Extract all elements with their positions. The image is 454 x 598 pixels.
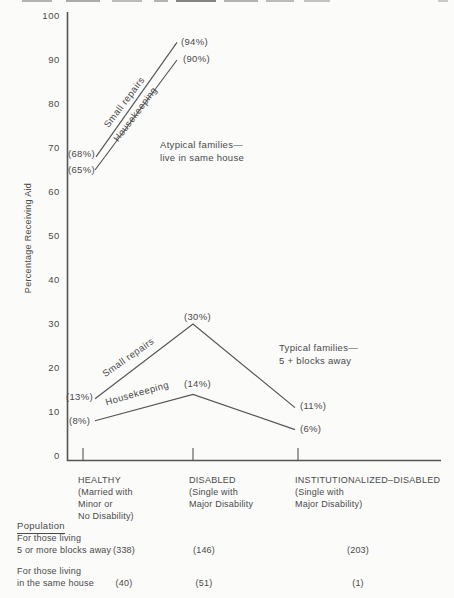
population-value-blocks-inst: (203) (328, 544, 388, 556)
point-label-typical-housekeeping-inst: (6%) (300, 423, 321, 435)
y-tick-label: 80 (26, 98, 60, 110)
category-sub-line: Major Disability) (295, 498, 440, 510)
y-tick-label: 90 (26, 54, 60, 66)
category-institutionalized-disabled: INSTITUTIONALIZED–DISABLED (Single with … (295, 474, 440, 510)
population-row2-label: For those living in the same house (17, 565, 94, 589)
population-value-blocks-disabled: (146) (174, 544, 234, 556)
y-tick-label: 70 (26, 142, 60, 154)
population-row-label-line: For those living (17, 532, 111, 544)
scanned-chart-page: 1009080706050403020100 Percentage Receiv… (0, 0, 454, 598)
annotation-line: Atypical families— (160, 139, 244, 152)
population-row-label-line: in the same house (17, 577, 94, 589)
y-axis-title: Percentage Receiving Aid (23, 183, 33, 293)
y-tick-label: 100 (26, 10, 60, 22)
annotation-line: 5 + blocks away (279, 355, 358, 368)
point-label-typical-small-repairs-disabled: (30%) (184, 311, 211, 323)
category-sub-line: (Married with (78, 486, 134, 498)
annotation-line: live in same house (160, 152, 244, 165)
point-label-atypical-housekeeping-disabled: (90%) (183, 53, 210, 65)
point-label-atypical-small-repairs-healthy: (68%) (68, 148, 95, 160)
annotation-atypical-families: Atypical families— live in same house (160, 139, 244, 164)
y-tick-label: 10 (26, 406, 60, 418)
category-sub-line: (Single with (295, 486, 440, 498)
point-label-atypical-small-repairs-disabled: (94%) (181, 36, 208, 48)
point-label-atypical-housekeeping-healthy: (65%) (68, 164, 95, 176)
category-disabled: DISABLED (Single with Major Disability (189, 474, 253, 510)
point-label-typical-small-repairs-inst: (11%) (300, 400, 326, 412)
category-sub-line: Major Disability (189, 498, 253, 510)
y-tick-label: 30 (26, 318, 60, 330)
point-label-typical-small-repairs-healthy: (13%) (66, 391, 93, 403)
category-healthy: HEALTHY (Married with Minor or No Disabi… (78, 474, 134, 522)
population-heading: Population (17, 515, 65, 533)
population-value-samehouse-disabled: (51) (174, 577, 234, 589)
population-row-label-line: For those living (17, 565, 94, 577)
category-name: DISABLED (189, 474, 253, 486)
category-sub-line: Minor or (78, 498, 134, 510)
category-sub-line: No Disability) (78, 510, 134, 522)
population-value-blocks-healthy: (338) (94, 544, 154, 556)
category-name: INSTITUTIONALIZED–DISABLED (295, 474, 440, 486)
y-tick-label: 20 (26, 362, 60, 374)
category-sub-line: (Single with (189, 486, 253, 498)
population-value-samehouse-healthy: (40) (94, 577, 154, 589)
category-name: HEALTHY (78, 474, 134, 486)
y-tick-label: 0 (26, 450, 60, 462)
annotation-line: Typical families— (279, 342, 358, 355)
population-value-samehouse-inst: (1) (328, 577, 388, 589)
annotation-typical-families: Typical families— 5 + blocks away (279, 342, 358, 367)
point-label-typical-housekeeping-healthy: (8%) (69, 415, 90, 427)
point-label-typical-housekeeping-disabled: (14%) (184, 378, 211, 390)
